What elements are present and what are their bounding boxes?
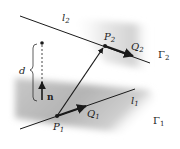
- label-gamma2: Γ2: [158, 49, 169, 62]
- label-n: n: [47, 92, 54, 102]
- point-p1: [55, 114, 59, 118]
- point-p2: [103, 44, 107, 48]
- skew-lines-diagram: l2 l1 P2 P1 Q2 Q1 Γ2 Γ1 n d: [0, 0, 180, 149]
- label-l2: l2: [62, 12, 70, 25]
- label-d: d: [19, 65, 25, 76]
- distance-top-dot: [40, 41, 44, 45]
- label-gamma1: Γ1: [153, 115, 164, 128]
